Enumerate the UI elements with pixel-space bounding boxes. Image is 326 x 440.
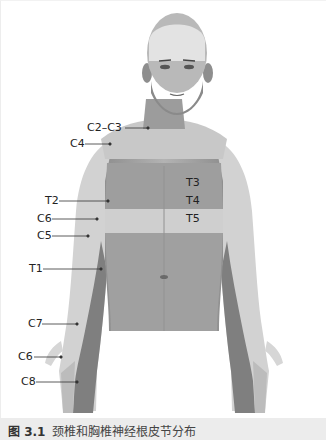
figure-title: 颈椎和胸椎神经根皮节分布 <box>52 422 196 439</box>
label-t1: T1 <box>29 263 43 275</box>
torso <box>101 119 227 331</box>
dermatome-figure: C2–C3 C4 T3 T4 T5 T2 C6 C5 T1 C7 C6 C8 <box>0 0 326 418</box>
body-illustration <box>1 1 326 419</box>
label-t3: T3 <box>186 177 200 189</box>
label-c6-hand: C6 <box>18 351 33 363</box>
figure-caption: 图 3.1 颈椎和胸椎神经根皮节分布 <box>0 418 326 440</box>
label-c8: C8 <box>21 376 36 388</box>
label-t4: T4 <box>186 195 200 207</box>
right-arm <box>215 141 283 413</box>
left-arm <box>45 141 113 413</box>
label-c6-arm: C6 <box>37 213 52 225</box>
label-c5: C5 <box>37 230 52 242</box>
label-c4: C4 <box>70 138 85 150</box>
label-t2: T2 <box>45 195 59 207</box>
label-c7: C7 <box>28 318 43 330</box>
figure-number: 图 3.1 <box>8 422 45 439</box>
label-c2-c3: C2–C3 <box>87 122 122 134</box>
label-t5: T5 <box>186 213 200 225</box>
